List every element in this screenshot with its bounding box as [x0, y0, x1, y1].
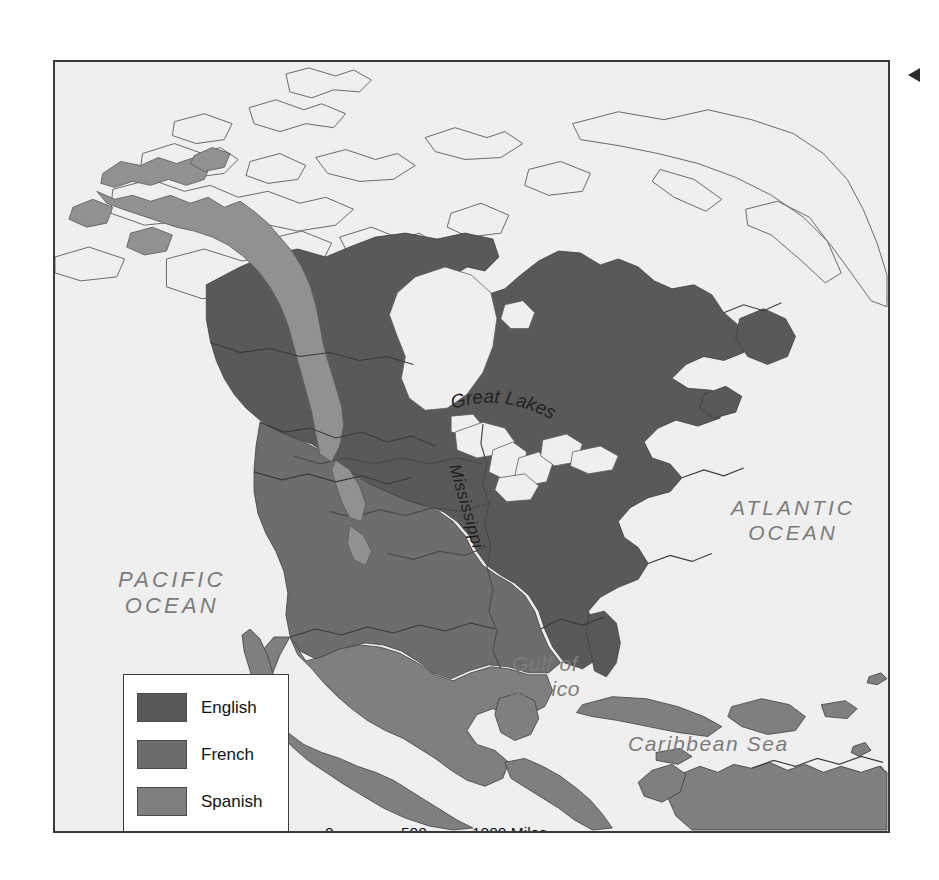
scale-miles-label: 1000 Miles	[472, 824, 547, 833]
legend-item-russian[interactable]: Russian	[124, 825, 288, 833]
legend-swatch-english	[137, 693, 187, 722]
edge-arrow-marker	[908, 68, 920, 82]
legend-item-english[interactable]: English	[124, 684, 288, 731]
legend-label-english: English	[201, 698, 257, 718]
legend-swatch-spanish	[137, 787, 187, 816]
map-legend[interactable]: English French Spanish Russian	[123, 674, 289, 833]
page-canvas: .eng { fill: #595959; stroke: #3f3f3f; s…	[0, 0, 939, 880]
scale-miles-tick-0: 0	[325, 824, 334, 833]
legend-swatch-french	[137, 740, 187, 769]
map-frame: .eng { fill: #595959; stroke: #3f3f3f; s…	[53, 60, 890, 833]
scale-bar: 0 500 1000 Miles 0 500 1000 Kilometers	[325, 822, 555, 833]
legend-label-french: French	[201, 745, 254, 765]
scale-miles-tick-500: 500	[401, 824, 427, 833]
legend-label-spanish: Spanish	[201, 792, 262, 812]
legend-item-spanish[interactable]: Spanish	[124, 778, 288, 825]
legend-item-french[interactable]: French	[124, 731, 288, 778]
